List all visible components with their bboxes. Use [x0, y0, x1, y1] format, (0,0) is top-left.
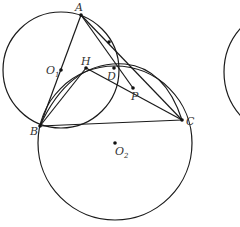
label-H: H	[80, 55, 91, 68]
point-O1	[59, 68, 63, 72]
point-E	[107, 40, 111, 44]
circle-right-partial	[224, 6, 240, 138]
segment-BC	[40, 120, 182, 126]
circles-group	[3, 6, 240, 220]
label-O2: O2	[115, 145, 129, 160]
label-D: D	[106, 70, 116, 83]
label-C: C	[186, 115, 195, 128]
label-A: A	[74, 1, 83, 14]
label-O1: O1	[46, 64, 60, 79]
geometry-diagram: ABCDHPO1O2	[0, 0, 240, 227]
point-B	[38, 124, 42, 128]
point-C	[180, 118, 184, 122]
label-B: B	[29, 125, 38, 138]
labels-group: ABCDHPO1O2	[29, 1, 195, 160]
label-P: P	[130, 90, 139, 103]
